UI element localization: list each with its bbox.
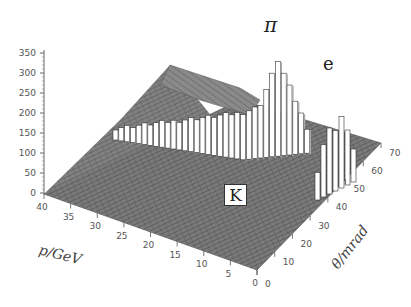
p-tick-label: 15: [169, 250, 180, 260]
z-tick-label: 0: [30, 188, 36, 198]
theta-tick-label: 20: [300, 239, 312, 249]
theta-tick-label: 50: [354, 184, 366, 194]
p-tick-label: 10: [196, 259, 208, 269]
lego-histogram: 050100150200250300350 4035302520151050 0…: [0, 0, 411, 307]
z-tick-label: 250: [19, 88, 36, 98]
electron-label: e: [323, 53, 334, 74]
kaon-label: K: [224, 184, 247, 206]
z-axis: 050100150200250300350: [19, 48, 44, 198]
z-tick-label: 100: [19, 148, 36, 158]
pion-label: π: [263, 13, 278, 37]
z-tick-label: 350: [19, 48, 36, 58]
p-tick-label: 5: [226, 269, 232, 279]
theta-tick-label: 40: [336, 202, 348, 212]
z-tick-label: 200: [19, 108, 36, 118]
p-tick-label: 40: [36, 202, 48, 212]
theta-axis-title: θ/mrad: [328, 222, 372, 272]
p-tick-label: 25: [116, 231, 127, 241]
p-tick-label: 20: [143, 240, 155, 250]
p-axis-title: p/GeV: [37, 241, 85, 267]
p-tick-label: 30: [90, 221, 102, 231]
z-tick-label: 300: [19, 68, 36, 78]
z-tick-label: 150: [19, 128, 36, 138]
theta-tick-label: 70: [389, 148, 401, 158]
theta-tick-label: 0: [265, 279, 271, 289]
p-tick-label: 0: [252, 278, 258, 288]
p-tick-label: 35: [63, 212, 74, 222]
theta-tick-label: 30: [318, 221, 330, 231]
z-tick-label: 50: [25, 168, 37, 178]
theta-tick-label: 10: [283, 257, 295, 267]
theta-tick-label: 60: [371, 166, 383, 176]
